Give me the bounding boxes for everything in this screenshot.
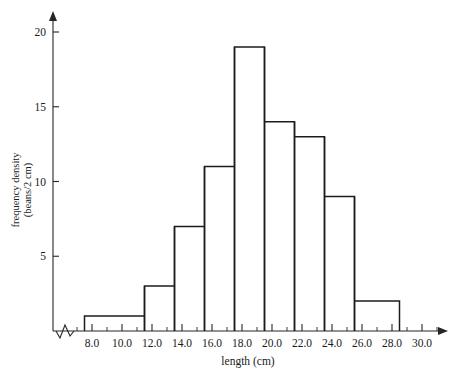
- y-tick-label: 5: [40, 250, 46, 262]
- y-axis-subtitle: (beans/2 cm): [22, 162, 34, 217]
- y-axis-arrowhead: [49, 11, 57, 21]
- chart-canvas: 8.010.012.014.016.018.020.022.024.026.02…: [0, 0, 454, 382]
- y-tick-label: 15: [35, 101, 47, 113]
- x-tick-label: 14.0: [172, 337, 192, 349]
- x-tick-label: 28.0: [382, 337, 402, 349]
- y-axis-title-line2: (beans/2 cm): [22, 162, 34, 217]
- y-tick-label: 10: [35, 176, 47, 188]
- y-tick-label: 20: [35, 26, 47, 38]
- x-tick-label: 24.0: [322, 337, 342, 349]
- x-axis-arrowhead: [438, 327, 448, 335]
- y-axis-title: frequency density: [10, 152, 21, 228]
- x-tick-label: 26.0: [352, 337, 372, 349]
- y-axis-title-line1: frequency density: [10, 152, 21, 228]
- x-tick-label: 12.0: [142, 337, 162, 349]
- x-tick-label: 22.0: [292, 337, 312, 349]
- axes-layer: [49, 11, 448, 338]
- x-tick-label: 18.0: [232, 337, 252, 349]
- x-axis-title: length (cm): [221, 355, 274, 368]
- x-tick-label: 16.0: [202, 337, 222, 349]
- x-tick-label: 10.0: [112, 337, 132, 349]
- histogram-chart: 8.010.012.014.016.018.020.022.024.026.02…: [0, 0, 454, 382]
- x-tick-label: 20.0: [262, 337, 282, 349]
- bars-layer: [85, 47, 400, 331]
- histogram-outline: [85, 47, 400, 331]
- x-tick-label: 30.0: [412, 337, 432, 349]
- x-tick-label: 8.0: [85, 337, 100, 349]
- ticks-layer: [53, 32, 437, 331]
- labels-layer: 8.010.012.014.016.018.020.022.024.026.02…: [10, 26, 432, 368]
